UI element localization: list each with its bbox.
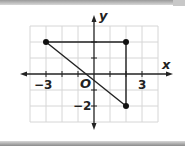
point-b [123, 39, 129, 45]
point-c [123, 103, 129, 109]
origin-label: O [80, 76, 91, 91]
x-tick-label-neg3: −3 [34, 78, 52, 92]
y-axis-down-arrow-icon [92, 123, 97, 130]
x-axis-left-arrow-icon [20, 72, 27, 77]
x-axis-right-arrow-icon [166, 72, 173, 77]
y-tick-label-neg2: −2 [73, 99, 91, 113]
point-a [43, 39, 49, 45]
x-tick-label-3: 3 [138, 78, 146, 92]
bottom-border-bar [0, 141, 185, 146]
coordinate-plane: y x O −3 3 −2 [0, 0, 185, 146]
y-axis-up-arrow-icon [92, 15, 97, 22]
x-axis-label: x [161, 57, 171, 72]
y-axis-label: y [99, 8, 108, 23]
